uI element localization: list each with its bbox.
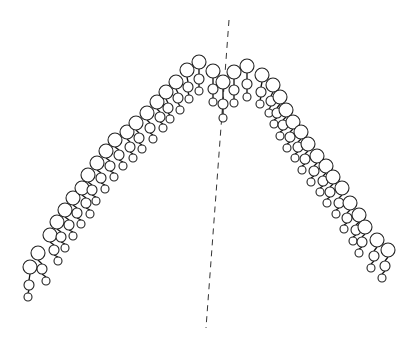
small-circle [316,188,324,196]
medium-circle [173,93,183,103]
small-circle [332,210,340,218]
small-circle [307,178,315,186]
large-circle [129,116,143,130]
circle-unit [23,260,37,301]
large-circle [90,156,104,170]
small-circle [86,210,94,218]
medium-circle [96,173,106,183]
small-circle [256,100,264,108]
large-circle [343,196,357,210]
small-circle [283,144,291,152]
medium-circle [309,166,319,176]
small-circle [355,249,363,257]
small-circle [323,199,331,207]
small-circle [92,197,100,205]
large-circle [108,133,122,147]
large-circle [43,228,57,242]
connector-line [38,260,42,264]
large-circle [240,59,254,73]
small-circle [209,98,217,106]
connector-line [166,99,168,103]
connector-line [29,274,30,280]
medium-circle [87,185,97,195]
small-circle [340,225,348,233]
small-circle [138,145,146,153]
medium-circle [325,187,335,197]
medium-circle [125,142,135,152]
small-circle [378,274,386,282]
large-circle [216,75,230,89]
large-circle [169,75,183,89]
medium-circle [81,198,91,208]
large-circle [23,260,37,274]
small-circle [276,132,284,140]
medium-circle [37,264,47,274]
large-circle [227,65,241,79]
right-arm [206,59,395,282]
large-circle [255,68,269,82]
large-circle [381,243,395,257]
medium-circle [218,99,228,109]
small-circle [129,154,137,162]
medium-circle [56,232,66,242]
large-circle [358,220,372,234]
small-circle [24,293,32,301]
circle-unit [216,75,230,122]
medium-circle [49,245,59,255]
small-circle [61,244,69,252]
small-circle [243,93,251,101]
medium-circle [285,132,295,142]
large-circle [81,168,95,182]
small-circle [367,264,375,272]
medium-circle [105,161,115,171]
medium-circle [64,220,74,230]
small-circle [54,257,62,265]
large-circle [335,181,349,195]
large-circle [58,203,72,217]
small-circle [291,154,299,162]
medium-circle [342,213,352,223]
large-circle [140,106,154,120]
medium-circle [134,133,144,143]
medium-circle [357,237,367,247]
small-circle [349,237,357,245]
large-circle [192,55,206,69]
large-circle [301,137,315,151]
small-circle [119,162,127,170]
medium-circle [114,150,124,160]
small-circle [195,87,203,95]
small-circle [230,99,238,107]
medium-circle [163,103,173,113]
small-circle [185,95,193,103]
medium-circle [183,82,193,92]
large-circle [31,246,45,260]
medium-circle [242,79,252,89]
circle-unit [192,55,206,95]
small-circle [101,185,109,193]
circle-unit [378,243,395,282]
connector-line [187,77,188,82]
connector-line [385,257,388,261]
medium-circle [256,87,266,97]
circle-chain-diagram [0,0,416,350]
large-circle [180,63,194,77]
medium-circle [229,85,239,95]
medium-circle [155,112,165,122]
connector-line [176,89,178,93]
small-circle [166,115,174,123]
left-arm [23,55,206,301]
large-circle [273,90,287,104]
connector-line [261,82,262,87]
medium-circle [380,261,390,271]
medium-circle [145,123,155,133]
large-circle [206,64,220,78]
circle-unit [240,59,254,101]
connector-line [374,247,377,251]
medium-circle [300,154,310,164]
large-circle [50,215,64,229]
small-circle [42,277,50,285]
large-circle [370,233,384,247]
medium-circle [194,74,204,84]
medium-circle [24,280,34,290]
small-circle [77,220,85,228]
